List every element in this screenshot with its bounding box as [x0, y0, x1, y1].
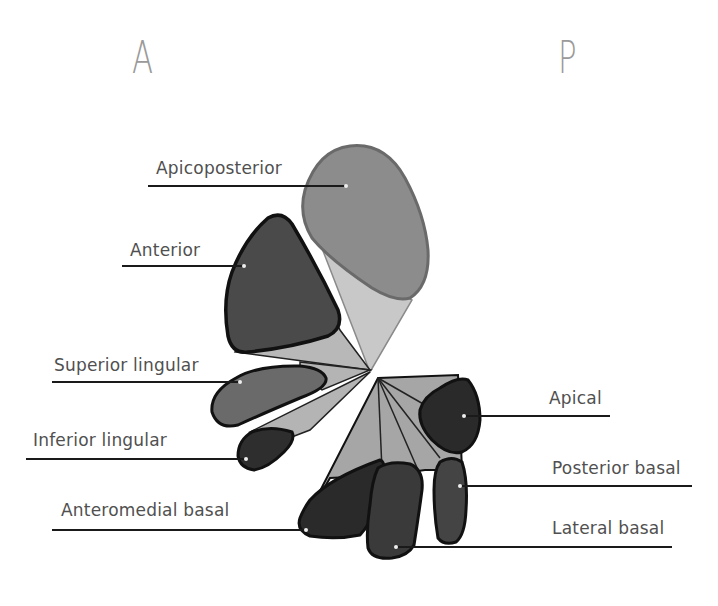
label-inferior-lingular: Inferior lingular: [33, 430, 167, 450]
leader-dot: [242, 264, 246, 268]
posterior-basal-segment: [434, 459, 467, 544]
label-anterior: Anterior: [130, 240, 200, 260]
leader-dot: [304, 528, 308, 532]
label-apical: Apical: [549, 388, 602, 408]
leader-dot: [458, 484, 462, 488]
inferior-lingular-segment: [238, 429, 293, 471]
leader-dot: [344, 184, 348, 188]
leader-dot: [244, 457, 248, 461]
leader-dot: [238, 380, 242, 384]
label-posterior-basal: Posterior basal: [552, 458, 681, 478]
leader-dot: [394, 545, 398, 549]
anterior-orientation-label: A: [132, 32, 153, 83]
lateral-basal-segment: [367, 463, 422, 559]
leader-dot: [462, 414, 466, 418]
label-anteromedial-basal: Anteromedial basal: [61, 500, 229, 520]
posterior-orientation-label: P: [558, 32, 577, 83]
label-lateral-basal: Lateral basal: [552, 518, 664, 538]
label-apicoposterior: Apicoposterior: [156, 158, 282, 178]
label-superior-lingular: Superior lingular: [54, 355, 199, 375]
